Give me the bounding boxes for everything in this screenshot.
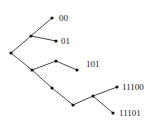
node-n10 [54,59,57,62]
edge-root-n1 [11,53,32,70]
node-leaf101 [75,68,78,71]
edge-n0-leaf01 [31,36,56,41]
node-n1 [30,68,33,71]
tree-edges [11,18,117,113]
edge-n1110-leaf11100 [93,87,117,96]
node-leaf11100 [115,85,118,88]
edge-n10-leaf101 [56,61,77,70]
node-n0 [29,34,32,37]
edge-n11-n111 [52,88,73,105]
node-n11 [50,86,53,89]
edge-n1110-leaf11101 [93,96,113,113]
leaf-labels: 00 01 101 11100 11101 [59,13,144,118]
edge-n0-leaf00 [31,18,52,36]
node-n111 [71,103,74,106]
edge-n1-n10 [32,61,56,70]
edge-n111-n1110 [73,96,93,105]
label-11100: 11100 [122,82,144,92]
edge-root-n0 [11,36,31,53]
edge-n1-n11 [32,70,52,88]
label-11101: 11101 [119,108,141,118]
node-leaf01 [54,39,57,42]
label-01: 01 [61,36,70,46]
label-00: 00 [59,13,69,23]
label-101: 101 [86,59,100,69]
node-n1110 [91,94,94,97]
node-leaf00 [50,16,53,19]
code-tree-diagram: 00 01 101 11100 11101 [0,0,156,132]
node-root [9,51,12,54]
node-leaf11101 [111,111,114,114]
